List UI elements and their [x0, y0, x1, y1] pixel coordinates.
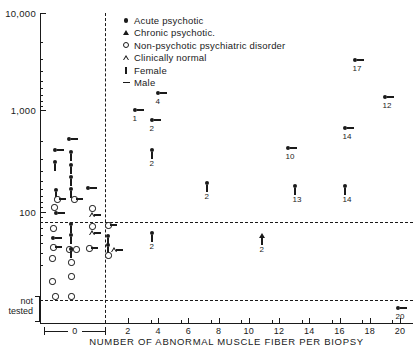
open-circle-icon — [105, 252, 111, 258]
male-marker-icon — [76, 198, 83, 199]
legend-label: Chronic psychotic. — [134, 27, 215, 38]
legend-item-male: Male — [118, 77, 285, 90]
legend: Acute psychotic Chronic psychotic. Non-p… — [118, 14, 285, 89]
open-triangle-icon — [118, 55, 134, 60]
male-marker-icon — [160, 92, 167, 93]
y-axis-tick — [40, 212, 46, 213]
data-point-label: 2 — [205, 192, 209, 201]
x-axis-line — [40, 323, 413, 324]
open-circle-icon — [52, 293, 58, 299]
data-point-label: 14 — [343, 132, 352, 141]
female-marker-icon — [70, 226, 71, 233]
y-axis-tick — [40, 243, 43, 244]
open-circle-icon — [68, 273, 74, 279]
open-circle-icon — [73, 246, 79, 252]
x-tick-label-6: 6 — [179, 326, 197, 336]
data-point-label: 20 — [396, 312, 405, 321]
male-marker-icon — [55, 237, 62, 238]
x-axis-minor-tick — [151, 320, 152, 323]
female-marker-icon — [70, 167, 71, 174]
y-axis-tick — [40, 196, 43, 197]
legend-label: Clinically normal — [134, 52, 207, 63]
female-marker-icon — [70, 237, 71, 244]
y-axis-tick — [40, 101, 43, 102]
legend-label: Female — [134, 65, 167, 76]
data-point-label: 2 — [150, 124, 154, 133]
male-marker-icon — [400, 307, 407, 308]
female-marker-icon — [206, 185, 207, 192]
y-axis-tick — [40, 228, 43, 229]
male-marker-icon — [154, 119, 161, 120]
open-circle-icon — [68, 293, 74, 299]
horizontal-dash-icon — [118, 82, 134, 83]
legend-item-chronic-psychotic: Chronic psychotic. — [118, 27, 285, 40]
y-axis-tick — [40, 95, 43, 96]
y-axis-not-tested-label: nottested — [0, 296, 33, 316]
male-marker-icon — [57, 149, 64, 150]
female-marker-icon — [294, 188, 295, 195]
legend-item-female: Female — [118, 64, 285, 77]
x-tick-label-12: 12 — [270, 326, 288, 336]
data-point — [92, 215, 95, 217]
x-tick-label-8: 8 — [210, 326, 228, 336]
x-axis-title: NUMBER OF ABNORMAL MUSCLE FIBER PER BIOP… — [40, 336, 413, 347]
y-axis-tick — [40, 217, 43, 218]
x-axis-tick — [188, 318, 189, 323]
x-tick-label-14: 14 — [300, 326, 318, 336]
open-circle-icon — [89, 205, 95, 211]
y-axis-tick — [40, 42, 43, 43]
male-marker-icon — [116, 249, 123, 250]
x-axis-minor-tick — [211, 320, 212, 323]
scatter-plot-figure: 10,000 1,000 100 nottested 2468101214161… — [0, 0, 419, 347]
x-tick-label-10: 10 — [240, 326, 258, 336]
data-point-label: 2 — [150, 242, 154, 251]
x-tick-label-20: 20 — [391, 326, 409, 336]
male-marker-icon — [71, 138, 78, 139]
x-axis-tick — [249, 318, 250, 323]
not-tested-line-1: tested — [0, 306, 33, 316]
legend-label: Male — [134, 77, 155, 88]
data-point-label: 2 — [150, 159, 154, 168]
y-axis-tick — [40, 159, 43, 160]
open-circle-icon — [49, 278, 55, 284]
x-axis-tick — [279, 318, 280, 323]
data-point-label: 4 — [156, 97, 160, 106]
male-marker-icon — [59, 198, 66, 199]
female-marker-icon — [70, 251, 71, 258]
y-axis-tick — [40, 181, 43, 182]
male-marker-icon — [58, 212, 65, 213]
zero-bracket-left-cap — [44, 327, 45, 335]
male-marker-icon — [94, 232, 101, 233]
legend-item-non-psychotic: Non-psychotic psychiatric disorder — [118, 39, 285, 52]
zero-bracket-right-cap — [105, 327, 106, 335]
filled-circle-icon — [118, 18, 134, 23]
data-point-label: 10 — [286, 152, 295, 161]
legend-item-clinically-normal: Clinically normal — [118, 52, 285, 65]
x-axis-tick — [370, 318, 371, 323]
data-point-label: 13 — [293, 195, 302, 204]
x-tick-label-4: 4 — [149, 326, 167, 336]
male-marker-icon — [110, 224, 117, 225]
y-tick-label-1000: 1,000 — [0, 105, 36, 116]
x-axis-minor-tick — [332, 320, 333, 323]
data-point — [114, 250, 117, 252]
female-marker-icon — [70, 179, 71, 186]
y-axis-tick — [40, 171, 43, 172]
x-axis-minor-tick — [272, 320, 273, 323]
y-axis-tick — [40, 106, 43, 107]
male-marker-icon — [290, 147, 297, 148]
x-tick-label-16: 16 — [331, 326, 349, 336]
x-axis-tick — [340, 318, 341, 323]
female-marker-icon — [70, 154, 71, 161]
data-point — [92, 233, 95, 235]
open-circle-icon — [68, 259, 74, 265]
male-marker-icon — [90, 187, 97, 188]
x-axis-minor-tick — [362, 320, 363, 323]
legend-label: Acute psychotic — [134, 15, 204, 26]
male-marker-icon — [137, 109, 144, 110]
not-tested-dashed-line — [40, 300, 413, 301]
open-circle-icon — [89, 223, 95, 229]
legend-item-acute-psychotic: Acute psychotic — [118, 14, 285, 27]
legend-label: Non-psychotic psychiatric disorder — [134, 40, 285, 51]
y-tick-label-100: 100 — [0, 207, 36, 218]
